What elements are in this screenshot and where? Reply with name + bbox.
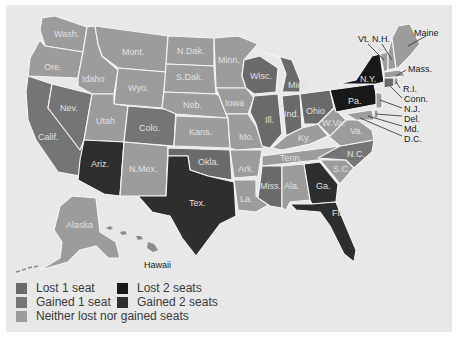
label-conn: Conn. bbox=[404, 94, 428, 104]
label-sdak: S.Dak. bbox=[176, 72, 203, 82]
label-nev: Nev. bbox=[60, 103, 78, 113]
label-sc: S.C. bbox=[333, 164, 351, 174]
label-ariz: Ariz. bbox=[91, 159, 109, 169]
label-mass: Mass. bbox=[408, 64, 432, 74]
state-conn bbox=[384, 78, 394, 88]
label-miss: Miss. bbox=[260, 181, 281, 191]
label-tex: Tex. bbox=[189, 198, 206, 208]
label-vt: Vt. bbox=[358, 34, 369, 44]
label-ky: Ky. bbox=[298, 133, 310, 143]
label-tenn: Tenn. bbox=[280, 153, 302, 163]
label-ark: Ark. bbox=[238, 164, 254, 174]
legend-item-gained-1: Gained 1 seat bbox=[16, 295, 111, 309]
state-mass bbox=[384, 70, 406, 78]
legend-label-gained-1: Gained 1 seat bbox=[36, 295, 111, 309]
legend-label-gained-2: Gained 2 seats bbox=[137, 295, 218, 309]
label-wash: Wash. bbox=[54, 29, 79, 39]
label-la: La. bbox=[240, 194, 253, 204]
swatch-neither bbox=[16, 311, 27, 322]
legend-label-neither: Neither lost nor gained seats bbox=[36, 309, 189, 323]
swatch-gained-1 bbox=[16, 297, 27, 308]
label-nh: N.H. bbox=[372, 34, 390, 44]
label-fla: Fla. bbox=[332, 208, 347, 218]
label-mich: Mich. bbox=[288, 80, 310, 90]
state-md bbox=[346, 110, 374, 120]
label-mont: Mont. bbox=[122, 47, 145, 57]
legend-item-lost-1: Lost 1 seat bbox=[16, 281, 95, 295]
label-minn: Minn. bbox=[218, 55, 240, 65]
label-neb: Neb. bbox=[183, 100, 202, 110]
legend-item-neither: Neither lost nor gained seats bbox=[16, 309, 189, 323]
aleutian-islands bbox=[16, 266, 38, 272]
label-ndak: N.Dak. bbox=[177, 46, 205, 56]
label-wyo: Wyo. bbox=[128, 83, 148, 93]
label-del: Del. bbox=[404, 114, 420, 124]
swatch-gained-2 bbox=[117, 297, 128, 308]
label-ala: Ala. bbox=[284, 181, 300, 191]
label-utah: Utah bbox=[96, 116, 115, 126]
label-wva: W.Va. bbox=[322, 118, 345, 128]
legend-label-lost-2: Lost 2 seats bbox=[137, 281, 202, 295]
label-wisc: Wisc. bbox=[250, 71, 272, 81]
label-nj: N.J. bbox=[404, 104, 420, 114]
label-nmex: N.Mex. bbox=[129, 164, 158, 174]
label-alaska: Alaska bbox=[66, 220, 93, 230]
swatch-lost-1 bbox=[16, 283, 27, 294]
label-idaho: Idaho bbox=[82, 74, 105, 84]
label-hawaii: Hawaii bbox=[144, 260, 171, 270]
label-kans: Kans. bbox=[189, 127, 212, 137]
label-colo: Colo. bbox=[139, 123, 160, 133]
label-mo: Mo. bbox=[239, 132, 254, 142]
label-calif: Calif. bbox=[38, 132, 59, 142]
label-okla: Okla. bbox=[198, 157, 219, 167]
label-nc: N.C. bbox=[347, 149, 365, 159]
legend-item-gained-2: Gained 2 seats bbox=[117, 295, 218, 309]
label-ohio: Ohio bbox=[306, 106, 325, 116]
label-ga: Ga. bbox=[316, 181, 331, 191]
label-pa: Pa. bbox=[348, 96, 362, 106]
legend-item-lost-2: Lost 2 seats bbox=[117, 281, 202, 295]
label-dc: D.C. bbox=[404, 134, 422, 144]
label-iowa: Iowa bbox=[225, 98, 244, 108]
legend-label-lost-1: Lost 1 seat bbox=[36, 281, 95, 295]
label-md: Md. bbox=[404, 124, 419, 134]
label-maine: Maine bbox=[414, 28, 439, 38]
state-alaska bbox=[40, 196, 120, 270]
label-ind: Ind. bbox=[284, 109, 299, 119]
label-ny: N.Y. bbox=[360, 74, 376, 84]
label-ore: Ore. bbox=[44, 62, 62, 72]
label-va: Va. bbox=[350, 126, 363, 136]
swatch-lost-2 bbox=[117, 283, 128, 294]
label-ri: R.I. bbox=[403, 84, 417, 94]
label-ill: Ill. bbox=[265, 115, 274, 125]
